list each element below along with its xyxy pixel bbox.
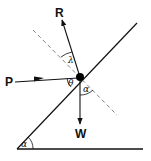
force-r-arrow xyxy=(62,20,80,77)
label-alpha-base: α xyxy=(21,139,27,149)
label-w: W xyxy=(75,127,87,141)
label-p: P xyxy=(5,75,13,89)
label-lambda: λ xyxy=(67,55,74,65)
label-r: R xyxy=(55,6,64,20)
normal-dashed-line xyxy=(33,30,117,115)
force-diagram: R P W θ α λ α xyxy=(0,0,151,161)
point-mass xyxy=(76,73,84,81)
label-alpha-ball: α xyxy=(83,84,89,94)
label-theta: θ xyxy=(68,78,74,88)
alpha-base-arc xyxy=(28,137,33,149)
